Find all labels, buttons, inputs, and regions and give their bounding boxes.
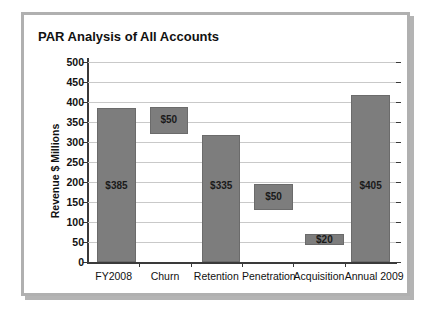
x-tick-mark: [345, 262, 346, 267]
gridline: [88, 62, 396, 63]
bar-value-label: $385: [97, 180, 136, 191]
x-tick-mark: [139, 262, 140, 267]
figure-container: FIGURE 8-2 PAR Analysis of All Accounts …: [0, 0, 430, 314]
x-tick-label: Acquisition: [293, 270, 344, 282]
gridline: [88, 102, 396, 103]
y-tick-mark-right: [396, 222, 401, 223]
y-tick-label: 450: [44, 77, 84, 87]
plot-area: 050100150200250300350400450500 FY2008Chu…: [88, 62, 396, 262]
y-tick-label: 400: [44, 97, 84, 107]
chart-panel: PAR Analysis of All Accounts Revenue $ M…: [21, 12, 410, 296]
y-tick-mark-right: [396, 242, 401, 243]
chart-title: PAR Analysis of All Accounts: [38, 29, 219, 44]
y-tick-mark-right: [396, 262, 401, 263]
x-tick-label: Annual 2009: [345, 270, 396, 282]
x-tick-label: Penetration: [242, 270, 293, 282]
bar: [351, 95, 390, 262]
bar-value-label: $335: [202, 180, 241, 191]
y-tick-label: 250: [44, 157, 84, 167]
y-tick-label: 300: [44, 137, 84, 147]
y-tick-mark-right: [396, 162, 401, 163]
y-tick-label: 350: [44, 117, 84, 127]
y-tick-label: 0: [44, 257, 84, 267]
y-tick-mark-right: [396, 82, 401, 83]
y-tick-mark-right: [396, 202, 401, 203]
y-tick-mark-right: [396, 102, 401, 103]
y-tick-label: 150: [44, 197, 84, 207]
x-tick-label: Churn: [139, 270, 190, 282]
gridline: [88, 82, 396, 83]
bar-value-label: $50: [150, 114, 189, 125]
x-tick-mark: [242, 262, 243, 267]
bar-value-label: $50: [254, 191, 293, 202]
x-tick-label: FY2008: [88, 270, 139, 282]
y-tick-label: 100: [44, 217, 84, 227]
y-tick-mark-right: [396, 182, 401, 183]
y-tick-mark-right: [396, 142, 401, 143]
y-tick-mark-right: [396, 62, 401, 63]
bar-value-label: $405: [351, 180, 390, 191]
bar: [202, 135, 241, 262]
x-tick-label: Retention: [191, 270, 242, 282]
x-tick-mark: [191, 262, 192, 267]
y-tick-label: 500: [44, 57, 84, 67]
y-tick-mark-right: [396, 122, 401, 123]
y-axis-line: [87, 58, 89, 262]
bar-value-label: $20: [305, 234, 344, 245]
y-tick-label: 50: [44, 237, 84, 247]
x-tick-mark: [293, 262, 294, 267]
y-tick-label: 200: [44, 177, 84, 187]
